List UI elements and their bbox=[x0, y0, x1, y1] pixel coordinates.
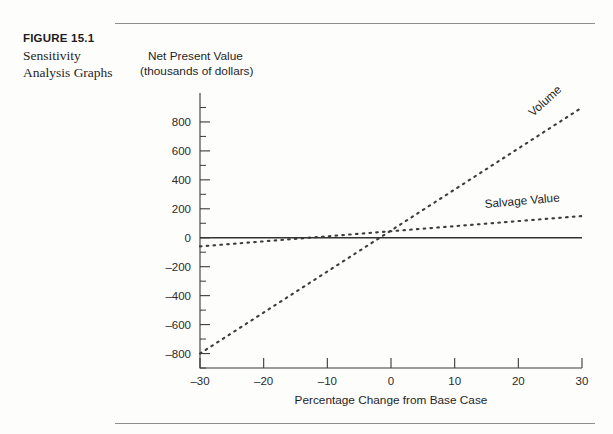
y-axis-title-line-1: Net Present Value bbox=[148, 49, 243, 63]
x-tick-label: 20 bbox=[512, 375, 525, 387]
x-tick-label: 30 bbox=[576, 375, 589, 387]
figure-page: FIGURE 15.1 Sensitivity Analysis Graphs … bbox=[0, 0, 613, 434]
x-tick-label: 0 bbox=[388, 375, 394, 387]
series-label-volume: Volume bbox=[526, 82, 565, 119]
x-axis-ticks bbox=[200, 358, 582, 368]
y-tick-label: 400 bbox=[172, 174, 191, 186]
x-tick-label: 10 bbox=[448, 375, 461, 387]
x-tick-label: –20 bbox=[254, 375, 273, 387]
y-tick-label: –800 bbox=[165, 348, 191, 360]
x-tick-label: –30 bbox=[190, 375, 209, 387]
sensitivity-chart: Net Present Value (thousands of dollars)… bbox=[0, 0, 613, 434]
series-line-salvage-value bbox=[200, 216, 582, 246]
series-label-salvage-value: Salvage Value bbox=[484, 190, 561, 211]
y-axis-title-line-2: (thousands of dollars) bbox=[140, 64, 254, 78]
y-tick-label: 600 bbox=[172, 145, 191, 157]
x-tick-label: –10 bbox=[318, 375, 337, 387]
y-tick-label: 200 bbox=[172, 203, 191, 215]
y-tick-label: 800 bbox=[172, 116, 191, 128]
y-tick-label: –600 bbox=[165, 319, 191, 331]
series-lines bbox=[200, 107, 582, 353]
y-tick-label: –200 bbox=[165, 261, 191, 273]
y-tick-label: –400 bbox=[165, 290, 191, 302]
x-axis-title: Percentage Change from Base Case bbox=[295, 393, 488, 407]
x-axis-tick-labels: –30–20–100102030 bbox=[190, 375, 588, 387]
y-tick-label: 0 bbox=[185, 232, 191, 244]
y-axis-tick-labels: –800–600–400–2000200400600800 bbox=[165, 116, 191, 360]
